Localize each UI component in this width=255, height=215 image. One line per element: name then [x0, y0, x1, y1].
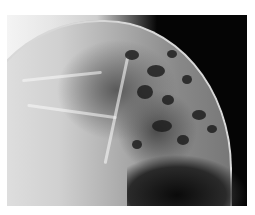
nodule [152, 120, 172, 132]
nodule [177, 135, 189, 145]
nodule [132, 140, 142, 149]
nodule [125, 50, 139, 60]
nodule [167, 50, 177, 58]
nodule [182, 75, 192, 84]
nodule [207, 125, 217, 133]
radiograph-image [7, 15, 247, 206]
nodule [137, 85, 153, 99]
nodule [162, 95, 174, 105]
nodule [147, 65, 165, 77]
nodule [192, 110, 206, 120]
dark-lower-region [127, 155, 247, 206]
